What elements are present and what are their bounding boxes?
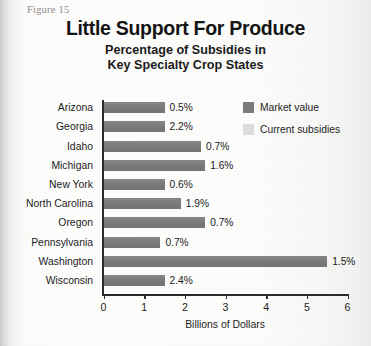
bar-value-label: 1.5% [332,256,355,267]
bar-value-label: 0.7% [206,141,229,152]
x-axis-tick [144,294,145,299]
bar-value-label: 0.6% [170,179,193,190]
legend: Market valueCurrent subsidies [243,102,340,146]
x-axis-tick-label: 0 [101,301,107,313]
x-axis-tick-label: 1 [141,301,147,313]
y-axis-label: Michigan [0,156,98,175]
bar-row: 0.6% [104,175,371,194]
bar-value-label: 0.5% [170,102,193,113]
y-axis-label: Washington [0,252,98,271]
x-axis-tick [185,294,186,299]
x-axis-tick [226,294,227,299]
legend-label: Current subsidies [260,124,340,135]
x-axis-tick-labels: 0123456 [0,301,371,317]
chart-subtitle: Percentage of Subsidies in Key Specialty… [0,43,371,74]
x-axis-line [102,294,348,296]
legend-swatch-market [243,102,254,113]
bar-market-value [104,275,165,286]
x-axis-tick-label: 4 [263,301,269,313]
x-axis-tick-label: 2 [182,301,188,313]
x-axis-tick [266,294,267,299]
legend-label: Market value [260,102,319,113]
figure-container: Figure 15 Little Support For Produce Per… [0,0,371,346]
chart-title: Little Support For Produce [0,18,371,40]
bar-row: 0.7% [104,213,371,232]
x-axis-tick [104,294,105,299]
bar-row: 2.4% [104,271,371,290]
bar-market-value [104,237,161,248]
y-axis-label: Pennsylvania [0,232,98,251]
y-axis-label: Idaho [0,136,98,155]
y-axis-label: North Carolina [0,194,98,213]
x-axis-tick-label: 5 [304,301,310,313]
bar-value-label: 0.7% [210,217,233,228]
bar-value-label: 2.4% [170,275,193,286]
bar-value-label: 1.9% [186,198,209,209]
bar-market-value [104,198,181,209]
x-axis-tick [348,294,349,299]
bar-row: 0.7% [104,232,371,251]
bar-value-label: 1.6% [210,160,233,171]
bar-market-value [104,121,165,132]
x-axis-tick [307,294,308,299]
y-axis-label: New York [0,175,98,194]
bar-market-value [104,179,165,190]
bar-value-label: 0.7% [165,237,188,248]
y-axis-label: Oregon [0,213,98,232]
bar-row: 1.5% [104,252,371,271]
y-axis-label: Georgia [0,117,98,136]
bar-market-value [104,217,206,228]
y-axis-category-labels: ArizonaGeorgiaIdahoMichiganNew YorkNorth… [0,98,98,290]
chart-subtitle-line-1: Percentage of Subsidies in [0,43,371,58]
bar-market-value [104,256,328,267]
bar-market-value [104,141,202,152]
figure-number-label: Figure 15 [27,4,69,15]
bar-row: 1.6% [104,156,371,175]
legend-item: Market value [243,102,340,113]
bar-market-value [104,160,206,171]
y-axis-label: Wisconsin [0,271,98,290]
x-axis-title: Billions of Dollars [102,319,348,330]
y-axis-label: Arizona [0,98,98,117]
chart-subtitle-line-2: Key Specialty Crop States [0,58,371,73]
bar-market-value [104,102,165,113]
bar-value-label: 2.2% [170,121,193,132]
legend-swatch-subsidy [243,124,254,135]
legend-item: Current subsidies [243,124,340,135]
bar-row: 1.9% [104,194,371,213]
title-block: Little Support For Produce Percentage of… [0,18,371,74]
x-axis-tick-label: 6 [345,301,351,313]
x-axis-tick-label: 3 [223,301,229,313]
